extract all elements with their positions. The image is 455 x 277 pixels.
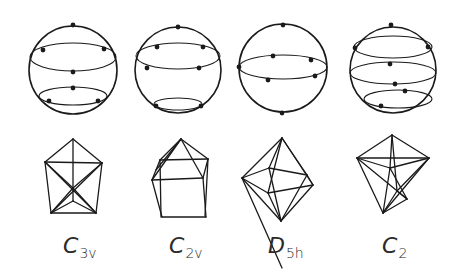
polyhedron-edge [281,175,307,221]
latitude-ring [350,62,436,84]
sphere-c2 [350,23,436,113]
polyhedron-edge [357,158,390,168]
vertex-point [71,86,76,91]
latitude-ring [136,43,220,69]
polyhedron-edge [269,168,281,221]
vertex-point [201,45,206,50]
vertex-point [197,66,202,71]
column-d5h [237,23,327,268]
vertex-point [71,70,76,75]
vertex-point [389,23,394,28]
sphere-c3v [29,23,117,114]
sphere-c2v [135,25,221,113]
vertex-point [426,45,431,50]
polyhedron-edge [307,175,313,185]
vertex-point [313,74,318,79]
polyhedron-edge [392,135,429,158]
vertex-point [71,23,76,28]
vertex-point [388,62,393,67]
vertex-point [280,111,285,116]
polyhedron-edge [51,163,102,213]
polyhedron-edge [45,162,51,213]
label-subscript: 5h [286,245,304,261]
label-d5h: D5h [268,235,304,260]
label-subscript: 3v [79,245,96,261]
vertex-point [379,104,384,109]
polyhedron-edge [242,178,281,221]
polyhedron-edge [357,135,392,158]
latitude-ring [154,98,202,110]
column-c2 [350,23,436,213]
polyhedron-edge [357,158,383,213]
vertex-point [96,99,101,104]
polyhedron-edge [73,201,96,213]
vertex-point [271,54,276,59]
vertex-point [155,45,160,50]
polyhedron-edge [392,135,397,191]
sphere-outline [239,24,327,112]
polyhedron-edge [73,163,102,188]
column-c2v [135,25,221,217]
vertex-point [393,82,398,87]
polyhedron-edge [45,139,73,162]
polyhedron-edge [269,168,307,175]
label-subscript: 2v [185,245,202,261]
polyhedron-c3v [45,139,102,213]
vertex-point [102,47,107,52]
polyhedron-edge [156,139,181,170]
label-main: C [382,233,397,258]
label-main: C [63,233,78,258]
polyhedron-edge [152,178,203,180]
vertex-point [199,104,204,109]
polyhedron-edge [268,193,281,221]
polyhedron-edge [73,188,96,213]
polyhedron-edge [181,139,203,178]
label-subscript: 2 [398,245,407,261]
label-c3v: C3v [63,235,97,260]
vertex-point [403,89,408,94]
latitude-ring [354,36,432,58]
vertex-point [353,46,358,51]
polyhedron-edge [390,135,392,168]
vertex-point [176,25,181,30]
polyhedron-edge [73,139,102,163]
polyhedron-edge [45,162,102,163]
polyhedron-edge [383,199,407,213]
label-main: D [268,233,285,258]
vertex-point [281,23,286,28]
label-c2v: C2v [169,235,203,260]
polyhedron-c2v [152,139,208,217]
latitude-ring [364,90,432,108]
vertex-point [309,58,314,63]
vertex-point [41,48,46,53]
polyhedron-edge [181,139,208,159]
column-c3v [29,23,117,213]
vertex-point [266,78,271,83]
polyhedron-edge [242,138,282,178]
polyhedron-edge [397,158,429,191]
vertex-point [47,99,52,104]
vertex-point [145,66,150,71]
polyhedron-edge [390,158,429,168]
vertex-point [154,104,159,109]
polyhedron-edge [242,168,269,178]
polyhedron-edge [96,163,102,213]
polyhedron-edge [51,188,73,213]
label-c2: C2 [382,235,407,260]
vertex-point [237,65,242,70]
label-main: C [169,233,184,258]
sphere-d5h [237,23,327,116]
polyhedron-c2 [357,135,429,213]
polyhedron-edge [45,162,73,188]
